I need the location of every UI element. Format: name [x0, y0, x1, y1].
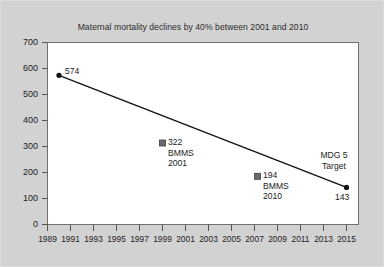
annotation-bmms-2001-year: 2001 [168, 158, 194, 169]
data-point-194-bmms [255, 173, 261, 179]
annotation-bmms-2010-source: BMMS [263, 181, 289, 192]
chart-plot-svg [1, 1, 384, 267]
y-tick-label-100: 100 [12, 193, 38, 203]
annotation-bmms-2001-value: 322 [168, 137, 194, 148]
annotation-mdg-target: MDG 5 Target [311, 150, 357, 171]
annotation-bmms-2001: 322 BMMS 2001 [168, 137, 194, 169]
y-tick-label-300: 300 [12, 141, 38, 151]
plot-area [48, 43, 359, 225]
annotation-bmms-2010: 194 BMMS 2010 [263, 170, 289, 202]
data-point-574 [56, 73, 61, 78]
x-axis-ticks [48, 225, 347, 232]
annotation-mdg-line2: Target [311, 161, 357, 172]
y-tick-label-600: 600 [12, 63, 38, 73]
annotation-mdg-line1: MDG 5 [311, 150, 357, 161]
y-tick-label-500: 500 [12, 89, 38, 99]
x-tick-label-2015: 2015 [334, 234, 360, 244]
chart-figure: Maternal mortality declines by 40% betwe… [0, 0, 384, 267]
annotation-bmms-2010-value: 194 [263, 170, 289, 181]
data-point-143 [344, 185, 349, 190]
y-tick-label-0: 0 [12, 219, 38, 229]
annotation-bmms-2001-source: BMMS [168, 148, 194, 159]
annotation-143: 143 [335, 192, 349, 203]
y-axis-ticks [42, 43, 48, 225]
data-point-322-bmms [160, 140, 166, 146]
annotation-574: 574 [65, 66, 79, 77]
annotation-bmms-2010-year: 2010 [263, 191, 289, 202]
y-tick-label-200: 200 [12, 167, 38, 177]
y-tick-label-400: 400 [12, 115, 38, 125]
y-tick-label-700: 700 [12, 37, 38, 47]
